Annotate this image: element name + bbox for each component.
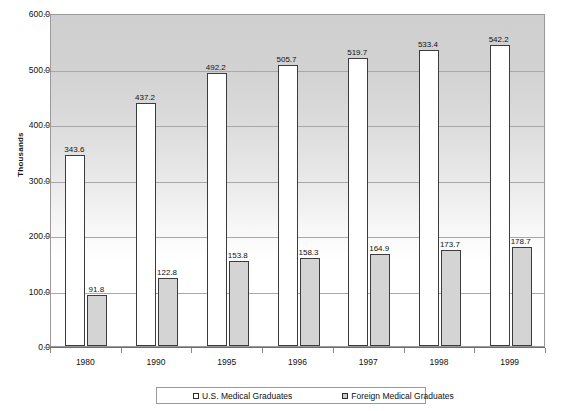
bar-1980-us — [65, 155, 85, 346]
x-tick-label-1990: 1990 — [147, 357, 166, 367]
bar-value-label: 437.2 — [135, 93, 155, 102]
y-tick-mark — [44, 292, 49, 293]
y-tick-mark — [44, 70, 49, 71]
x-tick-mark — [545, 348, 546, 353]
bar-value-label: 505.7 — [276, 55, 296, 64]
y-tick-mark — [44, 181, 49, 182]
legend-item-fmg[interactable]: Foreign Medical Graduates — [342, 391, 454, 401]
bar-value-label: 158.3 — [298, 248, 318, 257]
bar-1999-fmg — [512, 247, 532, 346]
bar-1995-fmg — [229, 261, 249, 346]
gridline — [51, 182, 544, 183]
x-tick-mark — [191, 348, 192, 353]
bar-1995-us — [207, 73, 227, 346]
gridline — [51, 293, 544, 294]
bar-value-label: 91.8 — [89, 285, 105, 294]
x-tick-label-1980: 1980 — [76, 357, 95, 367]
bar-value-label: 173.7 — [440, 240, 460, 249]
legend-label: Foreign Medical Graduates — [351, 391, 454, 401]
gridline — [51, 237, 544, 238]
y-tick-mark — [44, 347, 49, 348]
bar-value-label: 178.7 — [511, 237, 531, 246]
bar-1998-fmg — [441, 250, 461, 346]
y-axis-tick-labels: 600.0500.0400.0300.0200.0100.00.0 — [0, 14, 50, 347]
x-tick-mark — [333, 348, 334, 353]
legend-swatch-icon — [342, 393, 348, 399]
legend-swatch-icon — [193, 393, 199, 399]
gridline — [51, 71, 544, 72]
bar-value-label: 153.8 — [228, 251, 248, 260]
x-tick-label-1996: 1996 — [288, 357, 307, 367]
x-tick-label-1995: 1995 — [217, 357, 236, 367]
x-tick-label-1998: 1998 — [429, 357, 448, 367]
chart-legend: U.S. Medical GraduatesForeign Medical Gr… — [156, 387, 426, 404]
legend-label: U.S. Medical Graduates — [202, 391, 292, 401]
legend-item-us[interactable]: U.S. Medical Graduates — [193, 391, 292, 401]
plot-area — [50, 14, 545, 347]
gridline — [51, 126, 544, 127]
bar-1980-fmg — [87, 295, 107, 346]
y-tick-mark — [44, 14, 49, 15]
bar-value-label: 122.8 — [157, 268, 177, 277]
y-tick-mark — [44, 236, 49, 237]
bar-1990-fmg — [158, 278, 178, 346]
x-tick-mark — [121, 348, 122, 353]
bar-value-label: 164.9 — [369, 244, 389, 253]
bar-1996-us — [278, 65, 298, 346]
bar-1997-us — [348, 58, 368, 346]
bar-value-label: 542.2 — [489, 35, 509, 44]
x-tick-mark — [262, 348, 263, 353]
bar-value-label: 343.6 — [64, 145, 84, 154]
x-tick-label-1999: 1999 — [500, 357, 519, 367]
x-tick-mark — [50, 348, 51, 353]
bar-chart: Thousands 600.0500.0400.0300.0200.0100.0… — [0, 0, 561, 411]
bar-1990-us — [136, 103, 156, 346]
bar-value-label: 533.4 — [418, 40, 438, 49]
x-tick-label-1997: 1997 — [359, 357, 378, 367]
x-tick-mark — [404, 348, 405, 353]
x-axis-line — [50, 347, 545, 348]
bar-1998-us — [419, 50, 439, 346]
bar-1996-fmg — [300, 258, 320, 346]
y-tick-mark — [44, 125, 49, 126]
x-tick-mark — [474, 348, 475, 353]
bar-value-label: 519.7 — [347, 48, 367, 57]
bar-value-label: 492.2 — [206, 63, 226, 72]
bar-1999-us — [490, 45, 510, 346]
bar-1997-fmg — [370, 254, 390, 346]
